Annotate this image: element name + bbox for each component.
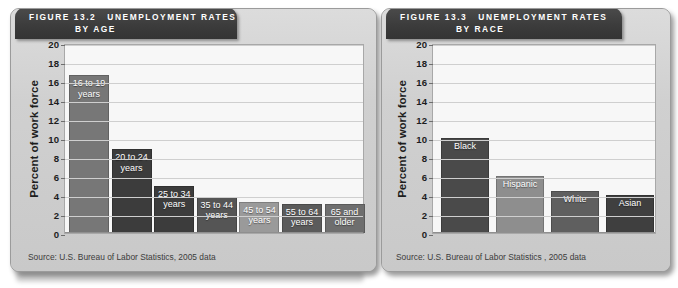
gridline bbox=[433, 216, 655, 217]
bar-label: 16 to 19years bbox=[70, 78, 108, 99]
y-tick-label: 4 bbox=[422, 191, 427, 202]
bar: 45 to 54years bbox=[239, 202, 279, 233]
figure-title-banner-race: FIGURE 13.3 UNEMPLOYMENT RATES BY RACE bbox=[386, 9, 622, 39]
gridline bbox=[65, 45, 363, 46]
bar-label: 55 to 64years bbox=[283, 207, 321, 228]
plot-area-age: 16 to 19years20 to 24years25 to 34years3… bbox=[64, 44, 364, 234]
bar-label: White bbox=[552, 194, 598, 205]
panel-background-race: FIGURE 13.3 UNEMPLOYMENT RATES BY RACE P… bbox=[382, 9, 670, 271]
y-tick-label: 18 bbox=[416, 58, 427, 69]
banner-line-1-race: FIGURE 13.3 UNEMPLOYMENT RATES bbox=[400, 12, 608, 24]
figure-title-banner-age: FIGURE 13.2 UNEMPLOYMENT RATES BY AGE bbox=[15, 9, 237, 39]
gridline bbox=[433, 83, 655, 84]
gridline bbox=[65, 64, 363, 65]
bar-label: 20 to 24years bbox=[113, 152, 151, 173]
gridline bbox=[433, 159, 655, 160]
figure-title-line1-age: UNEMPLOYMENT RATES bbox=[107, 12, 236, 24]
gridline bbox=[433, 121, 655, 122]
y-tick-label: 16 bbox=[48, 77, 59, 88]
panel-background-age: FIGURE 13.2 UNEMPLOYMENT RATES BY AGE Pe… bbox=[11, 9, 376, 271]
bar: 25 to 34years bbox=[154, 186, 194, 234]
y-axis-label-race: Percent of work force bbox=[394, 44, 410, 234]
gridline bbox=[65, 159, 363, 160]
y-tick-label: 8 bbox=[54, 153, 59, 164]
y-tick-label: 18 bbox=[48, 58, 59, 69]
bar: Asian bbox=[606, 195, 654, 233]
y-tick-mark bbox=[429, 235, 433, 236]
y-tick-label: 14 bbox=[48, 96, 59, 107]
gridline bbox=[65, 140, 363, 141]
gridline bbox=[65, 121, 363, 122]
gridline bbox=[433, 45, 655, 46]
y-tick-label: 12 bbox=[48, 115, 59, 126]
y-tick-label: 0 bbox=[422, 229, 427, 240]
source-note-age: Source: U.S. Bureau of Labor Statistics,… bbox=[28, 252, 216, 262]
bar-chart-race: Percent of work force 20181614121086420 … bbox=[396, 44, 656, 244]
bar: 35 to 44years bbox=[197, 197, 237, 233]
gridline bbox=[65, 216, 363, 217]
bar: 65 andolder bbox=[325, 204, 365, 233]
y-tick-label: 10 bbox=[48, 134, 59, 145]
y-tick-label: 6 bbox=[422, 172, 427, 183]
bar: 20 to 24years bbox=[112, 149, 152, 233]
y-axis-ticks-age: 20181614121086420 bbox=[42, 44, 62, 234]
gridline bbox=[433, 64, 655, 65]
bar-chart-age: Percent of work force 20181614121086420 … bbox=[28, 44, 364, 244]
panel-shadow-flap bbox=[16, 272, 364, 282]
bar-label: Asian bbox=[607, 198, 653, 209]
bar-label: 25 to 34years bbox=[155, 189, 193, 210]
figure-title-line2-age: BY AGE bbox=[29, 24, 237, 36]
gridline bbox=[65, 102, 363, 103]
figure-number-age: FIGURE 13.2 bbox=[29, 12, 96, 24]
y-tick-label: 6 bbox=[54, 172, 59, 183]
y-tick-label: 14 bbox=[416, 96, 427, 107]
banner-line-1-age: FIGURE 13.2 UNEMPLOYMENT RATES bbox=[29, 12, 237, 24]
y-tick-label: 2 bbox=[422, 210, 427, 221]
y-tick-label: 16 bbox=[416, 77, 427, 88]
y-tick-mark bbox=[61, 235, 65, 236]
y-tick-label: 2 bbox=[54, 210, 59, 221]
gridline bbox=[433, 178, 655, 179]
y-tick-label: 0 bbox=[54, 229, 59, 240]
y-tick-label: 12 bbox=[416, 115, 427, 126]
bar: 55 to 64years bbox=[282, 204, 322, 233]
bar-label: Hispanic bbox=[497, 179, 543, 190]
figure-title-line1-race: UNEMPLOYMENT RATES bbox=[478, 12, 607, 24]
y-tick-label: 4 bbox=[54, 191, 59, 202]
plot-area-race: BlackHispanicWhiteAsian bbox=[432, 44, 656, 234]
y-axis-ticks-race: 20181614121086420 bbox=[410, 44, 430, 234]
bar: Hispanic bbox=[496, 176, 544, 233]
y-tick-label: 20 bbox=[416, 39, 427, 50]
bar-series-age: 16 to 19years20 to 24years25 to 34years3… bbox=[65, 45, 363, 233]
figure-panel-race: FIGURE 13.3 UNEMPLOYMENT RATES BY RACE P… bbox=[381, 8, 671, 272]
bar: Black bbox=[441, 138, 489, 233]
gridline bbox=[433, 140, 655, 141]
gridline bbox=[433, 197, 655, 198]
bar-series-race: BlackHispanicWhiteAsian bbox=[433, 45, 655, 233]
y-tick-label: 10 bbox=[416, 134, 427, 145]
banner-text-race: FIGURE 13.3 UNEMPLOYMENT RATES BY RACE bbox=[386, 12, 608, 35]
bar-label: 35 to 44years bbox=[198, 200, 236, 221]
y-tick-label: 8 bbox=[422, 153, 427, 164]
y-axis-label-age: Percent of work force bbox=[26, 44, 42, 234]
source-note-race: Source: U.S. Bureau of Labor Statistics … bbox=[396, 252, 586, 262]
gridline bbox=[433, 102, 655, 103]
x-axis-line-race bbox=[433, 232, 655, 233]
x-axis-line-age bbox=[65, 232, 363, 233]
figure-number-race: FIGURE 13.3 bbox=[400, 12, 467, 24]
figure-sheet: FIGURE 13.2 UNEMPLOYMENT RATES BY AGE Pe… bbox=[0, 0, 678, 288]
gridline bbox=[65, 197, 363, 198]
banner-text-age: FIGURE 13.2 UNEMPLOYMENT RATES BY AGE bbox=[15, 12, 237, 35]
y-tick-label: 20 bbox=[48, 39, 59, 50]
bar: 16 to 19years bbox=[69, 75, 109, 233]
bar-label: 65 andolder bbox=[326, 207, 364, 228]
gridline bbox=[65, 178, 363, 179]
gridline bbox=[65, 83, 363, 84]
bar-label: Black bbox=[442, 141, 488, 152]
figure-title-line2-race: BY RACE bbox=[400, 24, 608, 36]
figure-panel-age: FIGURE 13.2 UNEMPLOYMENT RATES BY AGE Pe… bbox=[10, 8, 377, 272]
